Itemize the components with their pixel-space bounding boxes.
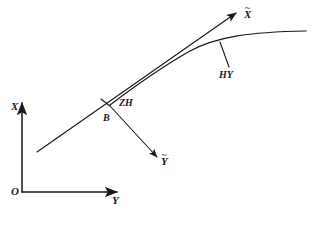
x-axis-label: X: [11, 101, 18, 112]
y-axis-label: Y: [112, 195, 119, 206]
origin-label: O: [11, 186, 19, 197]
x-tilde-accent: ~: [245, 3, 250, 13]
local-y-tilde-label: ~ Y: [161, 156, 168, 167]
b-point-label: B: [103, 113, 110, 123]
diagram-vector-layer: [0, 0, 313, 225]
diagram-canvas: X Y O ZH B HY ~ X ~ Y: [0, 0, 313, 225]
hy-station-label: HY: [219, 70, 233, 80]
zh-station-label: ZH: [119, 98, 133, 108]
y-tilde-accent: ~: [162, 150, 167, 160]
local-x-tilde-label: ~ X: [244, 9, 251, 20]
tangent-line: [37, 13, 236, 152]
local-normal-axis-arrow: [110, 106, 157, 157]
hy-leader-line: [220, 42, 229, 67]
transition-curve: [110, 31, 306, 105]
